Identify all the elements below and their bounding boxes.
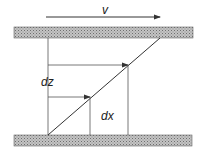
top-plate	[14, 27, 193, 38]
shear-flow-diagram: v dz dx	[0, 0, 203, 154]
dx-label: dx	[101, 109, 115, 123]
velocity-label: v	[102, 3, 109, 17]
bottom-plate	[14, 135, 192, 146]
dz-label: dz	[41, 75, 54, 89]
